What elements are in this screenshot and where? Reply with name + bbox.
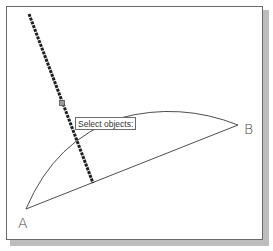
grip-marker-icon[interactable] bbox=[60, 101, 65, 106]
select-objects-tooltip: Select objects: bbox=[75, 117, 136, 130]
drawing-geometry bbox=[0, 0, 273, 251]
point-label-a: A bbox=[18, 215, 28, 231]
point-label-b: B bbox=[244, 121, 253, 137]
selected-line[interactable] bbox=[29, 14, 93, 183]
chord-ab[interactable] bbox=[26, 125, 238, 209]
